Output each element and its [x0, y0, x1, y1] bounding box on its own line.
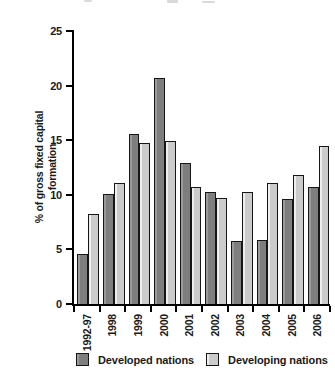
legend-item-developed-nations: Developed nations — [76, 353, 194, 366]
y-axis-title-line1: % of gross fixed capital — [33, 31, 46, 304]
bar-1999-developing-nations — [139, 143, 150, 304]
bar-2000-developing-nations — [165, 141, 176, 304]
cropped-text-remnant — [167, 0, 178, 3]
legend: Developed nationsDeveloping nations — [76, 353, 328, 366]
bar-2005-developing-nations — [293, 175, 304, 304]
plot-area — [72, 31, 330, 306]
y-tick-label-0: 0 — [28, 297, 62, 311]
y-tick-label-5: 5 — [28, 242, 62, 256]
legend-swatch-developing-nations — [206, 353, 219, 366]
x-tick-3 — [150, 306, 152, 312]
bar-2002-developing-nations — [216, 198, 227, 304]
fdi-bar-chart-figure: % of gross fixed capital formation 05101… — [0, 0, 335, 390]
y-tick-label-25: 25 — [28, 24, 62, 38]
y-tick-0 — [66, 303, 74, 305]
bar-2003-developed-nations — [231, 241, 242, 304]
y-axis-title: % of gross fixed capital formation — [33, 31, 59, 304]
legend-label-developing-nations: Developing nations — [228, 354, 328, 366]
y-tick-15 — [66, 139, 74, 141]
x-tick-5 — [201, 306, 203, 312]
bar-2000-developed-nations — [154, 78, 165, 304]
y-tick-label-10: 10 — [28, 188, 62, 202]
x-tick-8 — [278, 306, 280, 312]
y-tick-20 — [66, 85, 74, 87]
x-tick-9 — [303, 306, 305, 312]
cropped-text-remnant — [202, 1, 215, 3]
bar-2002-developed-nations — [205, 192, 216, 304]
x-tick-6 — [227, 306, 229, 312]
x-tick-0 — [73, 306, 75, 312]
legend-label-developed-nations: Developed nations — [98, 354, 194, 366]
cropped-text-remnant — [84, 0, 92, 2]
x-tick-7 — [252, 306, 254, 312]
bar-1998-developing-nations — [114, 183, 125, 304]
y-tick-5 — [66, 248, 74, 250]
bar-2004-developing-nations — [267, 183, 278, 304]
y-tick-label-15: 15 — [28, 133, 62, 147]
bar-2005-developed-nations — [282, 199, 293, 304]
bar-2001-developed-nations — [180, 163, 191, 304]
bars-container — [74, 31, 330, 304]
bar-2003-developing-nations — [242, 192, 253, 304]
x-tick-4 — [175, 306, 177, 312]
x-tick-2 — [124, 306, 126, 312]
bar-2004-developed-nations — [257, 240, 268, 304]
y-tick-10 — [66, 194, 74, 196]
y-tick-label-20: 20 — [28, 79, 62, 93]
bar-2001-developing-nations — [191, 187, 202, 304]
y-tick-25 — [66, 30, 74, 32]
legend-swatch-developed-nations — [76, 353, 89, 366]
legend-item-developing-nations: Developing nations — [206, 353, 328, 366]
bar-1998-developed-nations — [103, 194, 114, 304]
bar-2006-developed-nations — [308, 187, 319, 304]
y-axis-title-line2: formation — [46, 31, 59, 304]
bar-1999-developed-nations — [129, 134, 140, 304]
x-tick-1 — [99, 306, 101, 312]
bar-1992-97-developed-nations — [77, 254, 88, 304]
x-tick-10 — [329, 306, 331, 312]
bar-2006-developing-nations — [319, 146, 330, 304]
bar-1992-97-developing-nations — [88, 214, 99, 304]
